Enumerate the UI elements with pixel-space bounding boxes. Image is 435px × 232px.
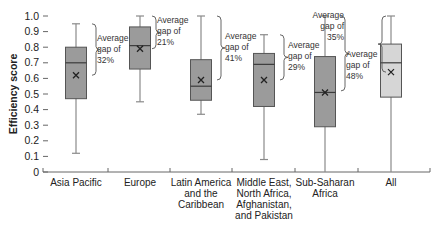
annotation-text: gap of (225, 42, 249, 52)
x-category-label: and Pakistan (235, 210, 293, 221)
x-category-label: Caribbean (178, 199, 224, 210)
annotation-text: 35% (327, 32, 344, 42)
box-6 (381, 16, 402, 172)
curly-brace-icon (217, 16, 225, 80)
y-tick-label: 0.1 (24, 150, 39, 162)
y-tick-label: 0.2 (24, 134, 39, 146)
annotation-text: Average (346, 49, 378, 59)
x-category-label: Middle East, (236, 177, 291, 188)
annotation-text: gap of (97, 44, 121, 54)
annotation-text: gap of (157, 26, 181, 36)
iqr-box (66, 47, 87, 98)
x-category-label: Asia Pacific (50, 177, 102, 188)
y-axis: 00.10.20.30.40.50.60.70.80.91.0 (24, 10, 48, 178)
annotation-text: Average (288, 40, 320, 50)
y-tick-label: 0.3 (24, 119, 39, 131)
x-category-label: Europe (124, 177, 157, 188)
curly-brace-icon (280, 35, 288, 80)
x-category-label: Sub-Saharan (296, 177, 355, 188)
annotation-text: Average (225, 31, 257, 41)
x-category-label: North Africa, (236, 188, 291, 199)
y-tick-label: 0.6 (24, 72, 39, 84)
x-category-label: Latin America (171, 177, 232, 188)
x-category-label: All (385, 177, 396, 188)
annotation-text: 21% (157, 37, 174, 47)
annotation-text: 48% (346, 71, 363, 81)
y-tick-label: 0.9 (24, 25, 39, 37)
box-4 (254, 35, 275, 160)
annotation-text: gap of (320, 21, 344, 31)
y-tick-label: 0.4 (24, 103, 39, 115)
annotation-text: gap of (346, 60, 370, 70)
annotation-text: Average (312, 10, 344, 20)
x-category-label: Afghanistan, (236, 199, 292, 210)
box-2 (130, 16, 151, 102)
x-category-label: and the (184, 188, 218, 199)
annotation-text: 29% (288, 62, 305, 72)
iqr-box (381, 44, 402, 97)
annotation-text: Average (157, 15, 189, 25)
y-tick-label: 0.5 (24, 88, 39, 100)
box-plot-chart: 00.10.20.30.40.50.60.70.80.91.0 Asia Pac… (0, 0, 435, 232)
annotation-text: Average (97, 33, 129, 43)
annotation-text: 32% (97, 55, 114, 65)
y-tick-label: 0.8 (24, 41, 39, 53)
y-tick-label: 0.7 (24, 56, 39, 68)
box-3 (191, 16, 212, 114)
annotation-text: gap of (288, 51, 312, 61)
y-tick-label: 0 (33, 166, 39, 178)
x-axis: Asia PacificEuropeLatin Americaand theCa… (43, 168, 430, 221)
x-category-label: Africa (312, 188, 338, 199)
chart-canvas: 00.10.20.30.40.50.60.70.80.91.0 Asia Pac… (0, 0, 435, 232)
y-axis-title: Efficiency score (7, 54, 19, 135)
y-tick-label: 1.0 (24, 10, 39, 22)
box-1 (66, 24, 87, 153)
annotation-text: 41% (225, 53, 242, 63)
